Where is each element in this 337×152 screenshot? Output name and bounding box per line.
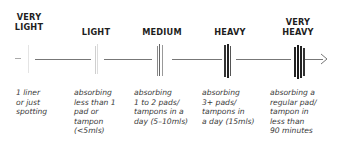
level-desc-very-heavy: absorbing a regular pad/ tampon in less … — [270, 88, 317, 136]
tick — [159, 44, 160, 76]
tick — [224, 45, 226, 77]
level-label-medium: MEDIUM — [142, 27, 182, 37]
level-desc-light: absorbing less than 1 pad or tampon (<5m… — [74, 88, 116, 136]
axis-segment — [35, 59, 91, 60]
level-label-heavy: HEAVY — [214, 27, 246, 37]
level-label-very-heavy: VERY HEAVY — [282, 17, 314, 37]
tick — [300, 46, 302, 78]
tick — [95, 46, 96, 74]
arrow-right-icon — [318, 52, 330, 66]
tick — [297, 45, 299, 79]
axis-segment — [172, 59, 222, 60]
tick — [157, 46, 158, 76]
level-desc-heavy: absorbing 3+ pads/ tampons in a day (15m… — [202, 88, 255, 126]
tick-very-light — [28, 45, 29, 73]
axis-segment — [236, 59, 291, 60]
tick — [227, 44, 229, 78]
tick — [230, 46, 231, 76]
level-desc-medium: absorbing 1 to 2 pads/ tampons in a day … — [134, 88, 188, 126]
tick — [97, 44, 98, 74]
tick — [294, 47, 296, 77]
level-label-light: LIGHT — [82, 27, 110, 37]
axis-segment — [104, 59, 152, 60]
level-label-very-light: VERY LIGHT — [15, 12, 43, 32]
tick — [162, 45, 163, 76]
level-desc-very-light: 1 liner or just spotting — [16, 88, 47, 117]
axis-segment — [15, 58, 21, 59]
tick — [303, 48, 305, 76]
